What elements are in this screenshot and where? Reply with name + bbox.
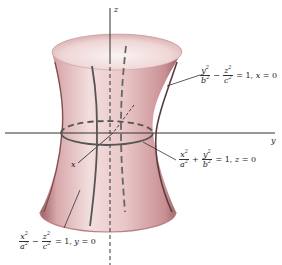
equation-trace-x0: y2b2 − z2c2 = 1, x = 0	[199, 66, 277, 85]
x-axis-label: x	[71, 161, 76, 169]
z-axis-label: z	[114, 6, 118, 14]
hyperboloid-diagram	[0, 0, 282, 265]
top-ellipse	[52, 34, 182, 70]
y-axis-label: y	[271, 137, 276, 145]
equation-trace-z0: x2a2 + y2b2 = 1, z = 0	[178, 150, 256, 169]
equation-trace-y0: x2a2 − z2c2 = 1, y = 0	[18, 232, 96, 251]
